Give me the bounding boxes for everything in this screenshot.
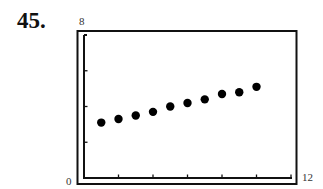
scatter-plot: 8 0 12 <box>0 0 323 189</box>
origin-label: 0 <box>66 175 72 187</box>
data-point <box>97 118 105 126</box>
data-point <box>149 108 157 116</box>
data-point <box>218 90 226 98</box>
data-point <box>235 88 243 96</box>
x-max-label: 12 <box>302 171 313 183</box>
data-points <box>97 83 261 127</box>
data-point <box>183 99 191 107</box>
y-max-label: 8 <box>79 15 85 27</box>
data-point <box>132 111 140 119</box>
data-point <box>201 95 209 103</box>
data-point <box>166 102 174 110</box>
data-point <box>252 83 260 91</box>
outer-frame <box>78 31 297 184</box>
data-point <box>114 115 122 123</box>
